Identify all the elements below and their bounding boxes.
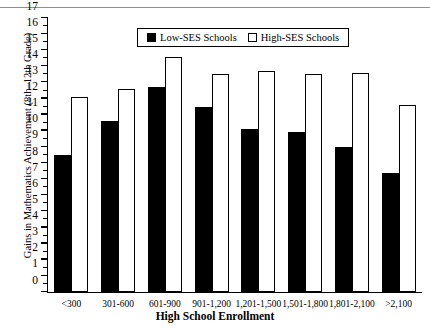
bar-group: <300 xyxy=(48,18,95,292)
bar-high-ses xyxy=(71,97,88,292)
y-tick-major xyxy=(41,129,48,130)
y-tick-label: 17 xyxy=(27,1,39,13)
y-tick-label: 5 xyxy=(32,194,38,206)
bar-low-ses xyxy=(54,155,71,292)
x-tick-label: >2,100 xyxy=(385,299,412,309)
bar-high-ses xyxy=(399,105,416,292)
legend-label-low-ses: Low-SES Schools xyxy=(160,32,237,43)
y-tick-major xyxy=(41,275,48,276)
bar-group: 1,801-2,100 xyxy=(329,18,376,292)
x-tick-label: 901-1,200 xyxy=(192,299,231,309)
y-tick-label: 3 xyxy=(32,226,38,238)
y-tick-label: 16 xyxy=(27,17,39,29)
cropped-caption-text: ° ° xyxy=(96,0,173,2)
y-tick-major xyxy=(41,49,48,50)
bar-groups: <300301-600601-900901-1,2001,201-1,5001,… xyxy=(48,18,422,292)
y-tick-major xyxy=(41,210,48,211)
y-tick-major xyxy=(41,242,48,243)
bar-low-ses xyxy=(195,107,212,292)
y-tick-major xyxy=(41,178,48,179)
bar-high-ses xyxy=(258,71,275,292)
y-tick-label: 10 xyxy=(27,114,39,126)
bar-group: 301-600 xyxy=(95,18,142,292)
x-tick-label: 301-600 xyxy=(102,299,134,309)
bar-low-ses xyxy=(382,173,399,292)
bar-group: 601-900 xyxy=(142,18,189,292)
bar-high-ses xyxy=(165,57,182,292)
y-tick-label: 12 xyxy=(27,81,39,93)
bar-high-ses xyxy=(352,73,369,292)
y-tick-label: 0 xyxy=(32,275,38,287)
horizontal-rule xyxy=(0,7,430,8)
y-tick-major xyxy=(41,33,48,34)
y-tick-label: 11 xyxy=(27,97,38,109)
legend-item-low-ses: Low-SES Schools xyxy=(147,32,237,43)
chart-figure: ° ° Gains in Mathematics Achievement (8t… xyxy=(0,0,430,328)
y-tick-major xyxy=(41,65,48,66)
y-tick-label: 1 xyxy=(32,259,38,271)
y-tick-label: 8 xyxy=(32,146,38,158)
x-tick-label: <300 xyxy=(62,299,82,309)
x-tick-label: 601-900 xyxy=(149,299,181,309)
x-tick-label: 1,201-1,500 xyxy=(235,299,281,309)
x-tick-label: 1,501-1,800 xyxy=(282,299,328,309)
bar-low-ses xyxy=(241,129,258,292)
y-tick-major xyxy=(41,113,48,114)
legend-swatch-open-icon xyxy=(248,33,257,42)
y-tick-major xyxy=(41,146,48,147)
chart-legend: Low-SES Schools High-SES Schools xyxy=(137,28,349,47)
plot-area: 01234567891011121314151617 <300301-60060… xyxy=(47,18,422,293)
y-tick-label: 14 xyxy=(27,49,39,61)
bar-high-ses xyxy=(305,74,322,292)
x-tick-label: 1,801-2,100 xyxy=(329,299,375,309)
bar-low-ses xyxy=(148,87,165,292)
y-tick-major xyxy=(41,97,48,98)
y-tick-major xyxy=(41,194,48,195)
y-tick-label: 15 xyxy=(27,33,39,45)
y-tick-major xyxy=(41,226,48,227)
cropped-caption-remnant: ° ° xyxy=(0,0,430,7)
y-tick-label: 7 xyxy=(32,162,38,174)
bar-group: 901-1,200 xyxy=(188,18,235,292)
bar-high-ses xyxy=(212,74,229,292)
bar-low-ses xyxy=(101,121,118,292)
y-tick-label: 13 xyxy=(27,65,39,77)
y-tick-major xyxy=(41,81,48,82)
bar-low-ses xyxy=(288,132,305,292)
y-tick-label: 4 xyxy=(32,210,38,222)
bar-group: >2,100 xyxy=(375,18,422,292)
legend-label-high-ses: High-SES Schools xyxy=(261,32,339,43)
y-tick-label: 6 xyxy=(32,178,38,190)
y-tick-major xyxy=(41,291,48,292)
bar-low-ses xyxy=(335,147,352,292)
legend-swatch-filled-icon xyxy=(147,33,156,42)
y-tick-label: 9 xyxy=(32,130,38,142)
y-tick-major xyxy=(41,258,48,259)
legend-item-high-ses: High-SES Schools xyxy=(248,32,339,43)
bar-group: 1,201-1,500 xyxy=(235,18,282,292)
bar-group: 1,501-1,800 xyxy=(282,18,329,292)
bar-high-ses xyxy=(118,89,135,292)
y-tick-major xyxy=(41,17,48,18)
y-tick-major xyxy=(41,162,48,163)
y-tick-label: 2 xyxy=(32,243,38,255)
x-axis-title: High School Enrollment xyxy=(0,310,430,322)
